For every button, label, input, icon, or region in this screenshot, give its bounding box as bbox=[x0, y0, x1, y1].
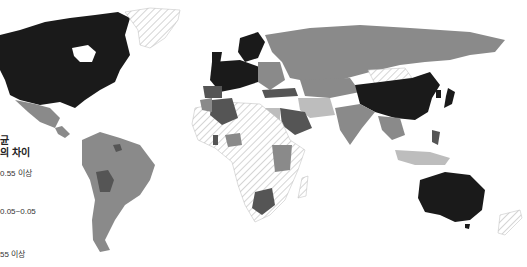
country-ghana bbox=[213, 135, 218, 145]
country-japan bbox=[444, 88, 455, 108]
country-kazakhstan bbox=[300, 78, 360, 98]
country-indonesia bbox=[395, 150, 450, 165]
country-india bbox=[335, 104, 375, 145]
country-scandinavia bbox=[238, 32, 265, 62]
country-tasmania bbox=[465, 224, 470, 229]
world-map bbox=[0, 0, 527, 267]
legend-item-high: 0.55 이상 bbox=[0, 167, 32, 178]
country-east-africa bbox=[272, 145, 292, 172]
country-korea bbox=[436, 90, 441, 98]
country-spain bbox=[203, 86, 222, 98]
legend-item-mid: 0.05~0.05 bbox=[0, 207, 36, 216]
legend-title-line2: 의 차이 bbox=[0, 147, 80, 159]
legend: 균 의 차이 bbox=[0, 135, 80, 159]
country-greenland bbox=[125, 8, 180, 48]
legend-item-low: 55 이상 bbox=[0, 248, 25, 259]
legend-title-line1: 균 bbox=[0, 135, 80, 147]
country-philippines bbox=[432, 130, 440, 145]
country-australia bbox=[418, 172, 485, 222]
country-eastern-europe bbox=[258, 62, 285, 90]
country-canada-usa bbox=[0, 12, 130, 108]
country-madagascar bbox=[298, 176, 308, 198]
country-nigeria bbox=[225, 133, 242, 147]
country-new-zealand bbox=[498, 210, 522, 235]
country-turkey bbox=[262, 88, 298, 98]
country-southeast-asia bbox=[378, 116, 405, 140]
